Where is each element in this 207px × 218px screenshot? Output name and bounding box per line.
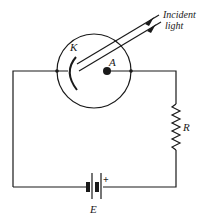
battery-polarity-label: +	[103, 174, 109, 185]
battery	[86, 173, 101, 199]
circuit-wires	[13, 71, 176, 187]
resistor-label: R	[182, 121, 190, 133]
anode-label: A	[108, 56, 116, 68]
incident-light-label-line2: light	[165, 20, 184, 31]
resistor	[172, 104, 180, 150]
cathode-electrode	[70, 57, 77, 90]
photoelectric-circuit-diagram: K A R E + Incident light	[0, 0, 207, 218]
incident-light-label-line1: Incident	[162, 9, 196, 20]
anode-electrode	[103, 67, 111, 75]
battery-label: E	[89, 203, 97, 215]
cathode-label: K	[69, 41, 78, 53]
